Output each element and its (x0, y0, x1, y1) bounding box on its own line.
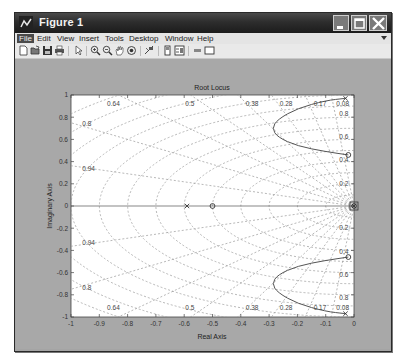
menu-insert[interactable]: Insert (79, 34, 99, 43)
damping-label: 0.64 (107, 304, 120, 311)
y-tick-label: 0 (64, 202, 68, 209)
y-tick-label: -1 (62, 313, 68, 320)
maximize-icon (352, 16, 368, 32)
x-tick-label: -0.8 (122, 320, 134, 327)
toolbar-separator (158, 46, 159, 56)
damping-label: 0.17 (314, 100, 327, 107)
damping-label: 0.28 (280, 304, 293, 311)
rotate-3d-icon[interactable] (126, 45, 137, 56)
menu-edit[interactable]: Edit (37, 34, 51, 43)
x-tick-label: -0.6 (179, 320, 191, 327)
y-tick-label: -0.8 (57, 291, 69, 298)
y-axis-label: Imaginary Axis (46, 183, 54, 229)
damping-label: 0.94 (82, 239, 95, 246)
menu-help[interactable]: Help (197, 34, 213, 43)
y-tick-label: 0.4 (59, 158, 68, 165)
menubar-overflow-icon[interactable] (381, 36, 387, 40)
damping-label: 0.8 (82, 120, 91, 127)
root-locus-plot[interactable]: -1-0.9-0.8-0.7-0.6-0.5-0.4-0.3-0.2-0.101… (16, 59, 390, 349)
toolbar-separator (68, 46, 69, 56)
close-icon (370, 16, 388, 32)
show-plot-tools-icon[interactable] (204, 45, 215, 56)
zoom-out-icon[interactable] (102, 45, 113, 56)
pan-hand-icon[interactable] (114, 45, 125, 56)
damping-label: 0.94 (82, 165, 95, 172)
title-bar[interactable]: Figure 1 (15, 13, 391, 33)
y-tick-label: -0.2 (57, 225, 69, 232)
open-file-icon[interactable] (30, 45, 41, 56)
toolbar-separator (140, 46, 141, 56)
damping-label: 0.8 (82, 284, 91, 291)
x-tick-label: -0.1 (320, 320, 332, 327)
y-tick-label: 1 (64, 91, 68, 98)
menu-desktop[interactable]: Desktop (129, 34, 158, 43)
damping-label: 0.28 (280, 100, 293, 107)
y-tick-label: 0.2 (59, 180, 68, 187)
chart-title: Root Locus (194, 84, 230, 91)
new-figure-icon[interactable] (18, 45, 29, 56)
menu-tools[interactable]: Tools (105, 34, 124, 43)
toolbar-separator (86, 46, 87, 56)
toolbar (15, 44, 391, 59)
print-icon[interactable] (54, 45, 65, 56)
minimize-icon (334, 16, 350, 32)
minimize-button[interactable] (333, 15, 349, 31)
x-tick-label: -1 (68, 320, 74, 327)
save-icon[interactable] (42, 45, 53, 56)
damping-label: 0.08 (336, 100, 349, 107)
x-tick-label: -0.2 (292, 320, 304, 327)
damping-label: 0.38 (246, 100, 259, 107)
x-axis-label: Real Axis (197, 333, 227, 340)
legend-icon[interactable] (174, 45, 185, 56)
damping-label: 0.5 (185, 304, 194, 311)
edit-plot-arrow-icon[interactable] (73, 45, 84, 56)
frequency-label: 0.4 (339, 248, 348, 255)
damping-label: 0.38 (246, 304, 259, 311)
damping-label: 0.17 (314, 304, 327, 311)
frequency-label: 0.2 (339, 180, 348, 187)
maximize-button[interactable] (351, 15, 367, 31)
hide-plot-tools-icon[interactable] (192, 45, 203, 56)
frequency-label: 0.8 (339, 110, 348, 117)
damping-label: 0.64 (107, 100, 120, 107)
y-tick-label: -0.4 (57, 247, 69, 254)
frequency-label: 0.6 (339, 133, 348, 140)
x-tick-label: -0.3 (263, 320, 275, 327)
colorbar-icon[interactable] (162, 45, 173, 56)
x-tick-label: -0.5 (207, 320, 219, 327)
menu-view[interactable]: View (57, 34, 74, 43)
frequency-label: 0.4 (339, 156, 348, 163)
toolbar-separator (188, 46, 189, 56)
data-cursor-icon[interactable] (144, 45, 155, 56)
figure-canvas[interactable]: -1-0.9-0.8-0.7-0.6-0.5-0.4-0.3-0.2-0.101… (16, 59, 390, 349)
menu-file[interactable]: File (17, 34, 34, 43)
menu-bar: File Edit View Insert Tools Desktop Wind… (15, 33, 391, 44)
damping-label: 0.5 (185, 100, 194, 107)
damping-label: 0.08 (336, 304, 349, 311)
y-tick-label: -0.6 (57, 269, 69, 276)
frequency-label: 0.2 (339, 224, 348, 231)
x-tick-label: -0.4 (235, 320, 247, 327)
y-tick-label: 0.6 (59, 136, 68, 143)
x-tick-label: -0.7 (150, 320, 162, 327)
x-tick-label: 0 (352, 320, 356, 327)
y-tick-label: 0.8 (59, 114, 68, 121)
window-title: Figure 1 (39, 16, 83, 28)
menu-window[interactable]: Window (165, 34, 193, 43)
figure-window: Figure 1 File Edit View Insert Tools Des… (14, 12, 392, 352)
frequency-label: 0.8 (339, 294, 348, 301)
x-tick-label: -0.9 (94, 320, 106, 327)
zoom-in-icon[interactable] (90, 45, 101, 56)
matlab-figure-icon (19, 16, 33, 30)
close-button[interactable] (369, 15, 387, 31)
frequency-label: 0.6 (339, 271, 348, 278)
